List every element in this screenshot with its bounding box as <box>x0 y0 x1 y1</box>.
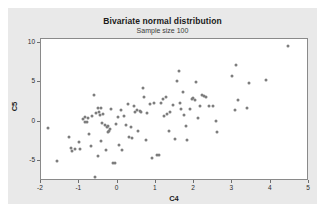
data-point <box>164 95 167 98</box>
data-point <box>108 128 111 131</box>
data-point <box>211 104 214 107</box>
data-point <box>265 78 268 81</box>
data-point <box>235 64 238 67</box>
y-tick-mark <box>37 121 40 122</box>
data-point <box>68 136 71 139</box>
data-point <box>126 103 129 106</box>
data-point <box>198 105 201 108</box>
x-tick-mark <box>155 180 156 183</box>
x-tick-label: 4 <box>260 184 280 191</box>
x-tick-label: -2 <box>30 184 50 191</box>
data-point <box>121 148 124 151</box>
data-point <box>183 114 186 117</box>
y-tick-mark <box>37 42 40 43</box>
data-point <box>85 121 88 124</box>
data-point <box>110 108 113 111</box>
plot-area <box>40 38 308 180</box>
data-point <box>56 159 59 162</box>
data-point <box>137 129 140 132</box>
data-point <box>97 155 100 158</box>
data-point <box>102 112 105 115</box>
data-point <box>195 80 198 83</box>
x-tick-mark <box>78 180 79 183</box>
data-point <box>161 98 164 101</box>
data-point <box>196 116 199 119</box>
data-point <box>115 122 118 125</box>
data-point <box>153 102 156 105</box>
data-point <box>143 96 146 99</box>
y-tick-mark <box>37 81 40 82</box>
data-point <box>79 147 82 150</box>
data-point <box>144 138 147 141</box>
y-tick-label: 10 <box>17 38 35 45</box>
data-point <box>118 144 121 147</box>
data-point <box>88 133 91 136</box>
x-tick-mark <box>40 180 41 183</box>
data-point <box>245 107 248 110</box>
data-point <box>94 176 97 179</box>
data-points-layer <box>41 39 307 179</box>
x-tick-label: 5 <box>298 184 318 191</box>
data-point <box>214 120 217 123</box>
data-point <box>160 101 163 104</box>
y-tick-label: -5 <box>17 156 35 163</box>
data-point <box>124 124 127 127</box>
data-point <box>157 153 160 156</box>
x-tick-label: 0 <box>107 184 127 191</box>
x-tick-label: 1 <box>145 184 165 191</box>
scatter-plot-figure: Bivariate normal distribution Sample siz… <box>0 0 325 219</box>
data-point <box>184 125 187 128</box>
data-point <box>46 126 49 129</box>
data-point <box>233 109 236 112</box>
data-point <box>119 108 122 111</box>
data-point <box>180 108 183 111</box>
data-point <box>77 141 80 144</box>
data-point <box>171 104 174 107</box>
chart-canvas: Bivariate normal distribution Sample siz… <box>8 8 317 204</box>
data-point <box>86 117 89 120</box>
x-tick-label: 3 <box>221 184 241 191</box>
data-point <box>74 148 77 151</box>
data-point <box>146 111 149 114</box>
data-point <box>179 101 182 104</box>
x-tick-mark <box>270 180 271 183</box>
data-point <box>181 91 184 94</box>
data-point <box>105 148 108 151</box>
data-point <box>216 131 219 134</box>
y-tick-label: 5 <box>17 77 35 84</box>
data-point <box>174 138 177 141</box>
data-point <box>247 82 250 85</box>
data-point <box>89 144 92 147</box>
data-point <box>91 114 94 117</box>
data-point <box>70 150 73 153</box>
data-point <box>113 161 116 164</box>
data-point <box>151 157 154 160</box>
x-tick-mark <box>231 180 232 183</box>
y-tick-mark <box>37 160 40 161</box>
x-tick-label: -1 <box>68 184 88 191</box>
data-point <box>167 129 170 132</box>
data-point <box>100 139 103 142</box>
data-point <box>286 45 289 48</box>
data-point <box>205 95 208 98</box>
y-tick-label: 0 <box>17 117 35 124</box>
data-point <box>129 125 132 128</box>
data-point <box>230 75 233 78</box>
data-point <box>123 115 126 118</box>
chart-title: Bivariate normal distribution <box>8 16 317 26</box>
data-point <box>193 99 196 102</box>
x-tick-label: 2 <box>183 184 203 191</box>
data-point <box>141 86 144 89</box>
data-point <box>176 79 179 82</box>
data-point <box>177 69 180 72</box>
data-point <box>186 138 189 141</box>
x-tick-mark <box>193 180 194 183</box>
data-point <box>188 107 191 110</box>
x-axis-label: C4 <box>40 194 308 203</box>
data-point <box>92 93 95 96</box>
x-tick-mark <box>117 180 118 183</box>
chart-subtitle: Sample size 100 <box>8 27 317 34</box>
data-point <box>116 116 119 119</box>
x-tick-mark <box>308 180 309 183</box>
data-point <box>169 110 172 113</box>
